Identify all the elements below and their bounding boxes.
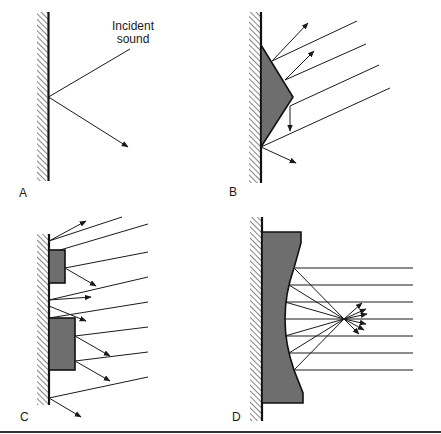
incident-ray [49,49,131,97]
concave-surface-block [262,232,303,403]
wall-hatching [250,217,262,421]
panel-b: B [229,12,390,199]
reflected-ray-arrow [49,398,81,417]
wall-hatching [37,234,49,405]
panel-label-d: D [232,410,241,424]
incident-ray [49,377,148,398]
reflected-ray-arrow [49,97,129,147]
incident-sound-label-line1: Incident [112,19,155,33]
reflected-ray-arrow [75,336,110,356]
small-rectangular-projection [49,250,65,283]
reflected-ray-arrow [65,268,96,286]
incident-ray [49,217,122,241]
wall-hatching [249,12,261,183]
reflected-ray-arrow [285,51,314,80]
incident-ray [290,65,379,106]
panel-c: C [20,217,148,424]
incident-ray [75,327,148,336]
reflected-ray-arrow [272,23,308,61]
acoustic-reflection-diagram: Incident sound A B [0,0,441,434]
panel-label-c: C [20,410,29,424]
incident-ray [75,352,148,361]
panel-d: D [232,217,413,424]
incident-ray [49,302,148,318]
focus-ray-arrow [344,309,366,319]
reflected-ray-arrow [261,147,296,163]
reflected-ray-arrow [75,361,110,381]
triangular-diffuser [261,45,293,147]
incident-sound-label-line2: sound [117,32,150,46]
focus-ray-arrow [344,319,366,324]
panel-label-b: B [229,185,237,199]
wall-hatching [37,12,48,181]
panel-a: Incident sound A [19,12,155,200]
large-rectangular-projection [49,318,75,370]
panel-label-a: A [19,186,27,200]
incident-ray [65,252,148,268]
incident-ray [272,21,357,61]
